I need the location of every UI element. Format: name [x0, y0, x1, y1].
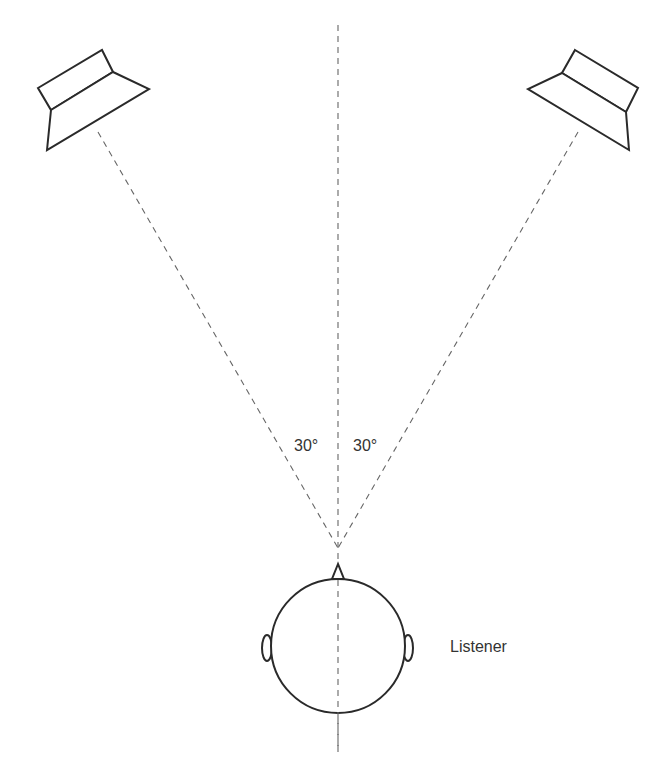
right-sightline [338, 132, 578, 548]
nose-icon [332, 564, 344, 579]
listener-label: Listener [450, 638, 508, 655]
left-sightline [98, 132, 338, 548]
left-angle-label: 30° [294, 437, 318, 454]
stereo-setup-diagram: 30° 30° Listener [0, 0, 670, 773]
right-angle-label: 30° [353, 437, 377, 454]
left-speaker-icon [38, 50, 149, 150]
right-speaker-icon [528, 50, 638, 150]
